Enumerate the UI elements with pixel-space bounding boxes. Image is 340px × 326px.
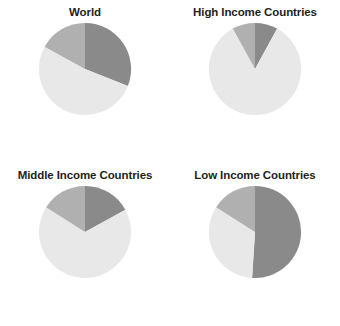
- pie-panel-world: World: [0, 0, 170, 163]
- pie-title-world: World: [69, 6, 101, 19]
- pie-chart-low-income: [207, 184, 303, 280]
- pie-svg-world: [37, 21, 133, 117]
- pie-chart-world: [37, 21, 133, 117]
- pie-slice: [252, 186, 301, 278]
- pie-chart-grid: World High Income Countries Middle Incom…: [0, 0, 340, 326]
- pie-panel-low-income: Low Income Countries: [170, 163, 340, 326]
- pie-title-low-income: Low Income Countries: [194, 169, 315, 182]
- pie-panel-middle-income: Middle Income Countries: [0, 163, 170, 326]
- pie-chart-high-income: [207, 21, 303, 117]
- pie-svg-middle-income: [37, 184, 133, 280]
- pie-title-middle-income: Middle Income Countries: [18, 169, 152, 182]
- pie-panel-high-income: High Income Countries: [170, 0, 340, 163]
- pie-svg-low-income: [207, 184, 303, 280]
- pie-svg-high-income: [207, 21, 303, 117]
- pie-title-high-income: High Income Countries: [193, 6, 317, 19]
- four-panel-pie-chart-figure: World High Income Countries Middle Incom…: [0, 0, 340, 326]
- pie-chart-middle-income: [37, 184, 133, 280]
